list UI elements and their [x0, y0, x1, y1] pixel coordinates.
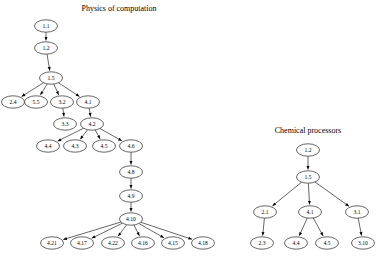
node-4.5[interactable]: 4.5	[316, 237, 339, 249]
arrowhead-1.5-to-5.5	[40, 91, 43, 95]
node-label: 1.2	[305, 147, 312, 153]
node-1.1[interactable]: 1.1	[35, 20, 58, 32]
node-1.5[interactable]: 1.5	[297, 171, 320, 183]
node-label: 4.5	[101, 143, 108, 149]
diagram-canvas: 1.11.21.52.45.53.24.13.34.24.44.34.54.64…	[0, 0, 389, 257]
node-label: 3.2	[59, 99, 66, 105]
arrowhead-1.5-to-4.1	[76, 93, 80, 96]
arrowhead-3.2-to-3.3	[62, 113, 65, 117]
graph-title-chemical-processors: Chemical processors	[275, 126, 341, 135]
node-4.4[interactable]: 4.4	[37, 140, 60, 152]
arrowhead-4.2-to-4.3	[80, 135, 83, 139]
edge-1.5-to-2.1	[272, 182, 301, 206]
node-4.8[interactable]: 4.8	[120, 166, 143, 178]
node-4.18[interactable]: 4.18	[192, 237, 215, 249]
node-label: 1.2	[43, 45, 50, 51]
node-label: 4.9	[128, 193, 135, 199]
node-label: 1.5	[305, 174, 312, 180]
arrowhead-1.5-to-2.4	[22, 93, 26, 96]
node-label: 4.1	[85, 99, 92, 105]
node-label: 1.1	[43, 23, 50, 29]
arrowhead-1.5-to-4.1	[308, 201, 311, 205]
node-label: 2.4	[10, 99, 17, 105]
node-3.10[interactable]: 3.10	[352, 237, 375, 249]
node-4.4[interactable]: 4.4	[285, 237, 308, 249]
arrowhead-4.10-to-4.21	[63, 237, 67, 240]
node-label: 5.5	[33, 99, 40, 105]
arrowhead-4.9-to-4.10	[130, 208, 133, 212]
node-3.1[interactable]: 3.1	[346, 206, 369, 218]
node-3.3[interactable]: 3.3	[54, 118, 77, 130]
node-label: 4.15	[168, 240, 178, 246]
node-label: 4.3	[72, 143, 79, 149]
edge-1.5-to-3.1	[315, 182, 349, 206]
node-label: 3.10	[358, 240, 368, 246]
node-label: 4.6	[128, 143, 135, 149]
node-2.3[interactable]: 2.3	[251, 237, 274, 249]
node-4.22[interactable]: 4.22	[102, 237, 125, 249]
edge-1.5-to-4.1	[58, 83, 79, 97]
node-4.5[interactable]: 4.5	[93, 140, 116, 152]
edge-layer	[262, 156, 363, 236]
arrowhead-4.8-to-4.9	[130, 185, 133, 189]
edge-4.10-to-4.17	[92, 223, 123, 238]
node-4.6[interactable]: 4.6	[120, 140, 143, 152]
node-label: 4.21	[47, 240, 57, 246]
node-label: 4.8	[128, 169, 135, 175]
edge-1.5-to-2.4	[22, 83, 44, 97]
node-label: 1.5	[48, 75, 55, 81]
node-1.2[interactable]: 1.2	[35, 42, 58, 54]
edge-layer	[22, 32, 192, 240]
node-2.4[interactable]: 2.4	[2, 96, 25, 108]
arrowhead-1.2-to-1.5	[307, 166, 310, 170]
node-4.3[interactable]: 4.3	[64, 140, 87, 152]
node-4.21[interactable]: 4.21	[41, 237, 64, 249]
node-label: 4.22	[108, 240, 118, 246]
node-5.5[interactable]: 5.5	[25, 96, 48, 108]
arrowhead-4.10-to-4.22	[118, 232, 121, 236]
node-label: 4.16	[138, 240, 148, 246]
node-label: 3.3	[62, 121, 69, 127]
graph-title-physics-of-computation: Physics of computation	[81, 4, 156, 13]
node-label: 4.10	[126, 216, 136, 222]
node-label: 4.2	[89, 121, 96, 127]
tree-chemical-processors: 1.21.52.14.13.12.34.44.53.10Chemical pro…	[251, 126, 375, 249]
node-1.5[interactable]: 1.5	[40, 72, 63, 84]
arrowhead-4.10-to-4.18	[188, 237, 192, 240]
node-label: 2.1	[262, 209, 269, 215]
node-label: 2.3	[259, 240, 266, 246]
node-4.16[interactable]: 4.16	[132, 237, 155, 249]
node-label: 3.1	[354, 209, 361, 215]
node-label: 4.4	[293, 240, 300, 246]
arrowhead-3.1-to-3.10	[359, 232, 362, 236]
arrowhead-4.1-to-4.2	[89, 113, 92, 117]
edge-4.10-to-4.18	[141, 222, 192, 239]
graph-svg: 1.11.21.52.45.53.24.13.34.24.44.34.54.64…	[0, 0, 389, 257]
node-4.1[interactable]: 4.1	[299, 206, 322, 218]
arrowhead-4.6-to-4.8	[130, 161, 133, 165]
node-4.2[interactable]: 4.2	[81, 118, 104, 130]
tree-physics-of-computation: 1.11.21.52.45.53.24.13.34.24.44.34.54.64…	[2, 4, 215, 249]
arrowhead-1.5-to-3.1	[345, 203, 349, 206]
node-label: 4.1	[307, 209, 314, 215]
node-label: 4.18	[198, 240, 208, 246]
node-label: 4.5	[324, 240, 331, 246]
arrowhead-1.2-to-1.5	[48, 67, 51, 71]
node-4.10[interactable]: 4.10	[120, 213, 143, 225]
node-1.2[interactable]: 1.2	[297, 144, 320, 156]
node-4.9[interactable]: 4.9	[120, 190, 143, 202]
node-4.1[interactable]: 4.1	[77, 96, 100, 108]
node-4.17[interactable]: 4.17	[71, 237, 94, 249]
arrowhead-1.1-to-1.2	[45, 37, 48, 41]
node-label: 4.4	[45, 143, 52, 149]
node-label: 4.17	[77, 240, 87, 246]
node-3.2[interactable]: 3.2	[51, 96, 74, 108]
node-4.15[interactable]: 4.15	[162, 237, 185, 249]
node-2.1[interactable]: 2.1	[254, 206, 277, 218]
edge-4.2-to-4.6	[100, 128, 122, 140]
